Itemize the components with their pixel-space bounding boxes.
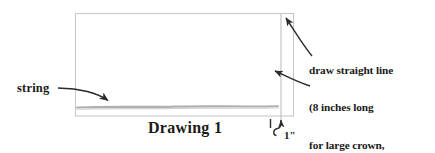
instruction-annotation: draw straight line (8 inches long for la… bbox=[309, 40, 393, 153]
annotation-line-1: draw straight line bbox=[309, 63, 393, 78]
drawing-caption: Drawing 1 bbox=[148, 120, 222, 136]
annotation-line-3: for large crown, bbox=[309, 138, 393, 153]
paper-outline bbox=[76, 14, 294, 117]
dimension-arrow bbox=[274, 120, 281, 136]
string-line bbox=[77, 106, 278, 107]
annotation-line-2: (8 inches long bbox=[309, 100, 393, 115]
dimension-label: 1" bbox=[284, 130, 296, 141]
diagram-canvas: string Drawing 1 1" draw straight line (… bbox=[0, 0, 435, 153]
string-label: string bbox=[17, 82, 49, 95]
